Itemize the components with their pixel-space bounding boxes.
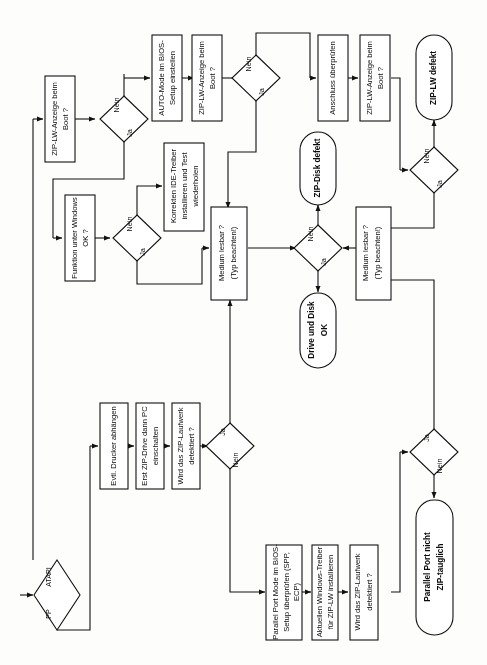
zipdrive-line1: Erst ZIP-Drive dann PC (140, 406, 149, 486)
node-medium-lesbar-left[interactable]: Medium lesbar ? (Typ beachten!) (211, 207, 247, 300)
funktion-line1: Funktion unter Windows (70, 197, 79, 279)
medium-left-line2: (Typ beachten!) (229, 226, 238, 279)
node-anschluss[interactable]: Anschluss überprüfen (318, 35, 348, 121)
medium-right-line1: Medium lesbar ? (361, 225, 370, 281)
node-zip-anzeige-2[interactable]: ZIP-LW-Anzeige beim Boot ? (192, 35, 222, 121)
det2-line1: Wird das ZIP-Laufwerk (353, 553, 362, 630)
dd1-label-ja: Ja (218, 428, 227, 436)
node-decision-anzeige-3[interactable]: Nein Ja (410, 147, 458, 193)
d2-label-nein: Nein (244, 57, 253, 72)
dd2-label-ja: Ja (422, 434, 431, 442)
node-drucker-abhaengen[interactable]: Evtl. Drucker abhängen (100, 403, 128, 489)
edge-d2-ja (228, 100, 256, 200)
zip-anzeige-3-line1: ZIP-LW-Anzeige beim (365, 41, 374, 115)
wintreiber-line2: für ZIP-LW installieren (326, 555, 335, 630)
anschluss-label: Anschluss überprüfen (328, 41, 337, 114)
atapi-label-pp: PP (44, 609, 53, 619)
node-terminal-zip-disk-defekt[interactable]: ZIP-Disk defekt (300, 132, 336, 205)
drive-ok-line2: OK (320, 324, 329, 336)
node-decision-medium[interactable]: Nein Ja (294, 225, 342, 271)
ide-line2: installieren und Test (180, 152, 189, 220)
zip-anzeige-1-line2: Boot ? (61, 108, 70, 130)
node-ide-treiber[interactable]: Korrekten IDE-Treiber installieren und T… (164, 143, 204, 231)
node-decision-anzeige-2[interactable]: Nein Ja (232, 55, 280, 101)
node-auto-mode[interactable]: AUTO-Mode im BIOS- Setup einstellen (152, 35, 182, 121)
edge-dd2-ja-to-medium-right (374, 280, 434, 430)
parallel-line1: Parallel Port Mode im BIOS- (271, 544, 280, 640)
edge-anzeige3-down (391, 78, 400, 170)
d3-label-ja: Ja (435, 180, 444, 188)
node-decision-detektiert-2[interactable]: Ja Nein (410, 429, 458, 475)
parallel-line2: Setup überprüfen (SPP, (282, 552, 291, 632)
d3-label-nein: Nein (422, 149, 431, 164)
wintreiber-line1: Aktuellen Windows-Treiber (315, 546, 324, 637)
df-label-nein: Nein (125, 217, 134, 232)
d1-label-nein: Nein (112, 98, 121, 113)
node-decision-detektiert-1[interactable]: Ja Nein (206, 423, 254, 469)
node-terminal-parallel-nicht-tauglich[interactable]: Parallel Port nicht ZIP-tauglich (416, 500, 453, 635)
medium-right-line2: (Typ beachten!) (373, 226, 382, 279)
node-decision-anzeige-1[interactable]: Nein Ja (100, 96, 148, 142)
funktion-line2: OK ? (81, 229, 90, 246)
edge-df-nein-to-ide (137, 186, 162, 216)
parallel-line3: ECP) (292, 582, 301, 601)
det2-line2: detektiert ? (365, 573, 374, 611)
node-terminal-zip-lw-defekt[interactable]: ZIP-LW defekt (416, 35, 452, 120)
dm-label-ja: Ja (319, 258, 328, 266)
det1-line1: Wird das ZIP-Laufwerk (176, 407, 185, 484)
node-atapi-decision[interactable]: PP ATAPI (34, 560, 80, 630)
connector-layer (20, 33, 434, 630)
dm-label-nein: Nein (306, 227, 315, 242)
atapi-label-atapi: ATAPI (44, 567, 53, 587)
node-medium-lesbar-right[interactable]: Medium lesbar ? (Typ beachten!) (356, 207, 391, 300)
auto-mode-line1: AUTO-Mode im BIOS- (157, 40, 166, 116)
det1-line2: detektiert ? (187, 427, 196, 465)
zip-lw-defekt-label: ZIP-LW defekt (429, 51, 438, 105)
edge-dd1-nein-to-parallel (230, 468, 265, 592)
zipdrive-line2: einschalten (151, 427, 160, 465)
node-zip-drive-pc[interactable]: Erst ZIP-Drive dann PC einschalten (136, 403, 164, 489)
d1-label-ja: Ja (125, 129, 134, 137)
parallel-nicht-line2: ZIP-tauglich (436, 544, 445, 591)
node-decision-funktion[interactable]: Nein Ja (113, 215, 161, 261)
dd1-label-nein: Nein (231, 453, 240, 468)
df-label-ja: Ja (138, 248, 147, 256)
drive-ok-line1: Drive und Disk (307, 301, 316, 359)
zip-anzeige-1-line1: ZIP-LW-Anzeige beim (50, 82, 59, 156)
drucker-label: Evtl. Drucker abhängen (109, 406, 118, 485)
flowchart-canvas: PP ATAPI ZIP-LW-Anzeige beim Boot ? Nein… (0, 0, 487, 665)
ide-line1: Korrekten IDE-Treiber (169, 149, 178, 223)
dd2-label-nein: Nein (435, 459, 444, 474)
zip-disk-defekt-label: ZIP-Disk defekt (313, 138, 322, 197)
flowchart-svg: PP ATAPI ZIP-LW-Anzeige beim Boot ? Nein… (0, 0, 487, 665)
zip-anzeige-2-line2: Boot ? (208, 67, 217, 89)
node-zip-anzeige-1[interactable]: ZIP-LW-Anzeige beim Boot ? (45, 76, 75, 162)
node-windows-treiber[interactable]: Aktuellen Windows-Treiber für ZIP-LW ins… (312, 545, 338, 640)
node-zip-anzeige-3[interactable]: ZIP-LW-Anzeige beim Boot ? (360, 35, 390, 121)
medium-left-line1: Medium lesbar ? (217, 225, 226, 281)
auto-mode-line2: Setup einstellen (168, 51, 177, 105)
node-parallel-port-mode[interactable]: Parallel Port Mode im BIOS- Setup überpr… (266, 544, 302, 640)
d2-label-ja: Ja (257, 88, 266, 96)
zip-anzeige-2-line1: ZIP-LW-Anzeige beim (197, 41, 206, 115)
node-terminal-drive-disk-ok[interactable]: Drive und Disk OK (300, 293, 336, 368)
node-detektiert-1[interactable]: Wird das ZIP-Laufwerk detektiert ? (172, 403, 200, 489)
ide-line3: wiederholen (191, 166, 200, 208)
node-detektiert-2[interactable]: Wird das ZIP-Laufwerk detektiert ? (350, 545, 378, 640)
parallel-nicht-line1: Parallel Port nicht (423, 532, 432, 602)
edge-det2-riser (391, 452, 400, 592)
node-funktion-windows[interactable]: Funktion unter Windows OK ? (65, 195, 95, 281)
zip-anzeige-3-line2: Boot ? (376, 67, 385, 89)
